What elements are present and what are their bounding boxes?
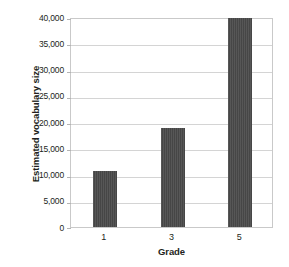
- y-axis-tick-label: 0: [20, 223, 64, 234]
- bar: [161, 128, 185, 227]
- y-axis-tick-label: 20,000: [20, 118, 64, 129]
- y-axis-tickmark: [67, 228, 71, 229]
- bar: [228, 18, 252, 227]
- plot-area: [70, 18, 273, 228]
- x-axis-tick-label: 1: [84, 231, 124, 244]
- y-axis-tick-label: 10,000: [20, 170, 64, 181]
- y-axis-tick-label: 35,000: [20, 39, 64, 50]
- bars-group: [71, 19, 272, 227]
- x-axis-tick-labels: 135: [70, 231, 273, 245]
- x-axis-tick-label: 5: [219, 231, 259, 244]
- x-axis-tick-label: 3: [152, 231, 192, 244]
- y-axis-tick-labels: 40,00035,00030,00025,00020,00015,00010,0…: [20, 12, 64, 234]
- bar: [93, 171, 117, 227]
- y-axis-tick-label: 30,000: [20, 65, 64, 76]
- y-axis-tick-label: 40,000: [20, 13, 64, 24]
- y-axis-tick-label: 5,000: [20, 196, 64, 207]
- y-axis-tick-label: 15,000: [20, 144, 64, 155]
- y-axis-tick-label: 25,000: [20, 91, 64, 102]
- x-axis-title: Grade: [70, 246, 273, 257]
- bar-chart-figure: Estimated vocabulary size 40,00035,00030…: [0, 0, 289, 267]
